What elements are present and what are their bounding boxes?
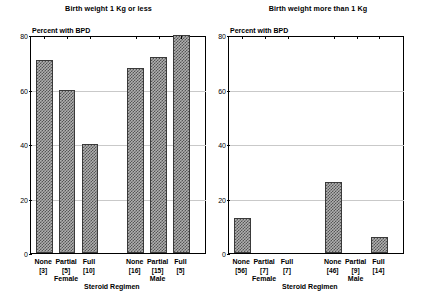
x-category-label: Partial[9] <box>345 257 366 275</box>
x-category-count: [5] <box>55 266 76 275</box>
group-label-male: Male <box>348 275 364 282</box>
bar <box>59 90 76 254</box>
x-category-name: Partial <box>345 257 366 266</box>
x-category-count: [10] <box>83 266 95 275</box>
x-category-count: [14] <box>372 266 384 275</box>
x-category-label: None[56] <box>232 257 250 275</box>
x-category-name: None <box>232 257 250 266</box>
x-tickmark <box>159 36 160 39</box>
x-tickmark <box>379 36 380 39</box>
x-tickmark <box>67 36 68 39</box>
x-tickmark <box>181 36 182 39</box>
group-label-male: Male <box>150 275 166 282</box>
panel-title: Birth weight more than 1 Kg <box>211 4 421 13</box>
x-category-label: None[3] <box>34 257 52 275</box>
x-category-count: [7] <box>253 266 274 275</box>
x-category-label: Full[14] <box>372 257 384 275</box>
panel-birth-weight-1kg-or-less: Birth weight 1 Kg or less Percent with B… <box>0 0 211 294</box>
x-category-count: [5] <box>174 266 186 275</box>
figure-panels: Birth weight 1 Kg or less Percent with B… <box>0 0 421 294</box>
x-category-label: Partial[7] <box>253 257 274 275</box>
bar <box>371 237 388 253</box>
group-label-female: Female <box>54 275 78 282</box>
x-category-count: [7] <box>281 266 293 275</box>
x-category-label: Full[7] <box>281 257 293 275</box>
x-category-count: [9] <box>345 266 366 275</box>
panel-title: Birth weight 1 Kg or less <box>0 4 211 13</box>
x-category-name: Full <box>174 257 186 266</box>
y-tickmark <box>29 254 32 255</box>
x-category-count: [3] <box>34 266 52 275</box>
bar <box>127 68 144 253</box>
bar <box>82 144 99 253</box>
x-category-name: Full <box>281 257 293 266</box>
plot-area-left: 020406080 <box>30 36 206 254</box>
group-label-female: Female <box>252 275 276 282</box>
x-tickmark <box>44 36 45 39</box>
bar <box>150 57 167 253</box>
x-category-label: None[46] <box>324 257 342 275</box>
bar <box>36 60 53 253</box>
x-category-count: [16] <box>126 266 144 275</box>
x-tickmark <box>265 36 266 39</box>
x-category-name: None <box>34 257 52 266</box>
bar <box>234 218 251 253</box>
x-category-name: Partial <box>253 257 274 266</box>
y-axis-label: Percent with BPD <box>230 27 288 34</box>
bar <box>173 35 190 253</box>
x-axis-title: Steroid Regimen <box>84 283 140 290</box>
x-category-label: Partial[15] <box>147 257 168 275</box>
bar <box>325 182 342 253</box>
x-tickmark <box>90 36 91 39</box>
plot-area-right: 020406080 <box>228 36 404 254</box>
x-category-name: None <box>126 257 144 266</box>
bars-left <box>31 36 206 253</box>
x-category-label: None[16] <box>126 257 144 275</box>
x-category-label: Full[10] <box>83 257 95 275</box>
x-category-count: [15] <box>147 266 168 275</box>
x-category-label: Partial[5] <box>55 257 76 275</box>
x-tickmark <box>136 36 137 39</box>
x-category-name: Full <box>372 257 384 266</box>
x-tickmark <box>288 36 289 39</box>
x-category-count: [56] <box>232 266 250 275</box>
y-tickmark <box>227 254 230 255</box>
bars-right <box>229 36 404 253</box>
x-category-count: [46] <box>324 266 342 275</box>
panel-birth-weight-more-than-1kg: Birth weight more than 1 Kg Percent with… <box>211 0 421 294</box>
y-axis-label: Percent with BPD <box>32 27 90 34</box>
x-category-name: Partial <box>55 257 76 266</box>
x-category-name: Partial <box>147 257 168 266</box>
x-axis-title: Steroid Regimen <box>282 283 338 290</box>
x-tickmark <box>242 36 243 39</box>
x-tickmark <box>334 36 335 39</box>
x-category-name: None <box>324 257 342 266</box>
x-tickmark <box>357 36 358 39</box>
x-category-label: Full[5] <box>174 257 186 275</box>
x-category-name: Full <box>83 257 95 266</box>
